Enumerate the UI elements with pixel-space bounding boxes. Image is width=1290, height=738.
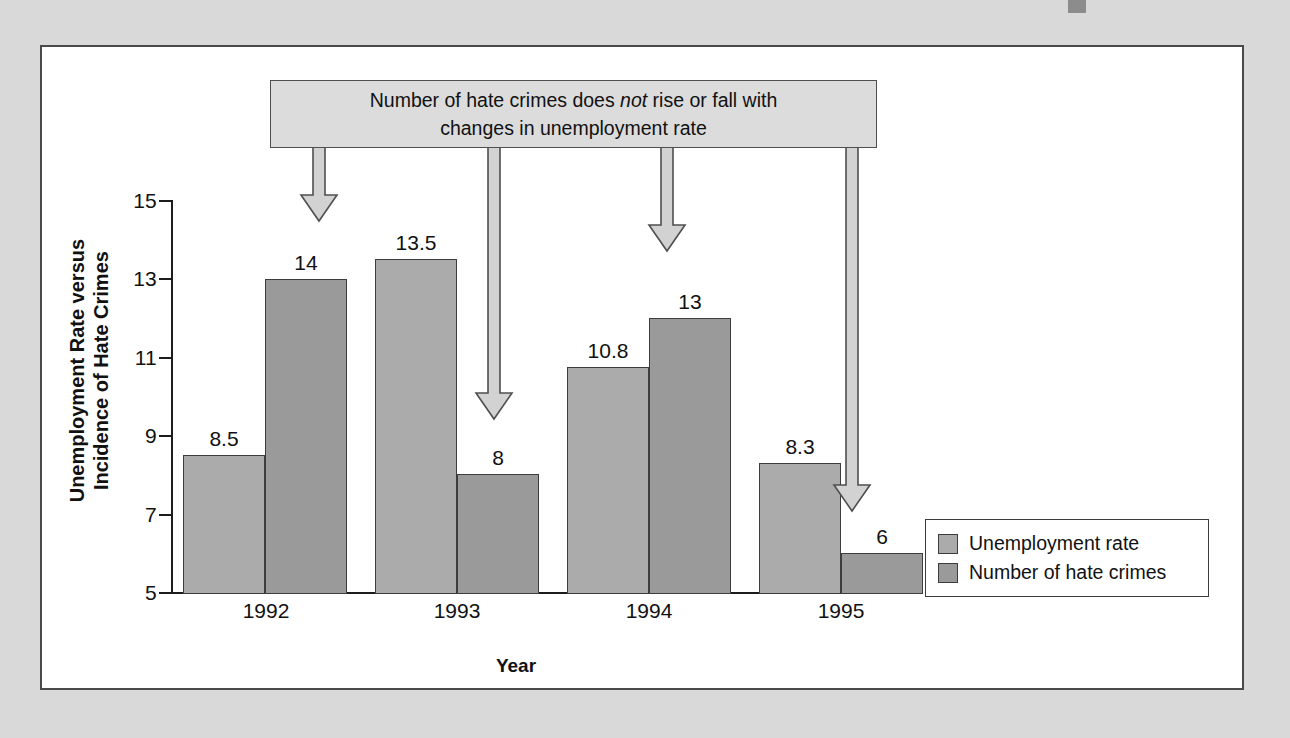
chart-plot-area: 15 13 11 9 7 5 Unemployment Rate versus … <box>42 47 1246 692</box>
legend-swatch-hate-crimes <box>938 563 958 583</box>
annotation-arrow-1993 <box>469 147 519 425</box>
bar-value-1993-unemployment-rate: 13.5 <box>375 231 457 255</box>
bar-value-1994-unemployment-rate: 10.8 <box>567 339 649 363</box>
bar-1995-hate-crimes <box>841 553 923 594</box>
bar-1993-unemployment-rate <box>375 259 457 594</box>
x-tick-label-1993: 1993 <box>416 599 498 623</box>
annotation-line1-post: rise or fall with <box>647 89 777 111</box>
annotation-arrow-1995 <box>827 147 877 517</box>
annotation-line2: changes in unemployment rate <box>440 117 707 139</box>
bar-1992-hate-crimes <box>265 279 347 594</box>
annotation-callout-box: Number of hate crimes does not rise or f… <box>270 80 877 148</box>
bar-1993-hate-crimes <box>457 474 539 594</box>
annotation-line1-pre: Number of hate crimes does <box>370 89 620 111</box>
bar-value-1992-hate-crimes: 14 <box>265 251 347 275</box>
legend-swatch-unemployment-rate <box>938 534 958 554</box>
annotation-callout-text: Number of hate crimes does not rise or f… <box>356 86 792 143</box>
annotation-arrow-1994 <box>642 147 692 257</box>
y-tick-15 <box>159 200 172 202</box>
y-tick-5 <box>159 592 172 594</box>
figure-panel: 15 13 11 9 7 5 Unemployment Rate versus … <box>40 45 1244 690</box>
y-axis-title-line1: Unemployment Rate versus <box>66 201 90 541</box>
x-tick-label-1995: 1995 <box>800 599 882 623</box>
y-axis-line <box>171 200 173 594</box>
x-tick-label-1992: 1992 <box>225 599 307 623</box>
legend-label-unemployment-rate: Unemployment rate <box>969 532 1139 555</box>
bar-value-1994-hate-crimes: 13 <box>649 290 731 314</box>
bar-1994-unemployment-rate <box>567 367 649 594</box>
y-tick-label-5: 5 <box>97 581 157 605</box>
legend-label-hate-crimes: Number of hate crimes <box>969 561 1166 584</box>
annotation-line1-emphasis: not <box>620 89 647 111</box>
y-axis-title: Unemployment Rate versus Incidence of Ha… <box>66 201 113 541</box>
bar-1992-unemployment-rate <box>183 455 265 594</box>
page-corner-mark <box>1068 0 1086 13</box>
bar-value-1992-unemployment-rate: 8.5 <box>183 427 265 451</box>
bar-value-1993-hate-crimes: 8 <box>457 446 539 470</box>
x-tick-label-1994: 1994 <box>608 599 690 623</box>
y-tick-7 <box>159 514 172 516</box>
x-axis-title: Year <box>171 655 861 677</box>
y-axis-title-line2: Incidence of Hate Crimes <box>90 201 114 541</box>
legend-item-hate-crimes: Number of hate crimes <box>938 558 1196 587</box>
chart-legend: Unemployment rate Number of hate crimes <box>925 519 1209 597</box>
legend-item-unemployment-rate: Unemployment rate <box>938 529 1196 558</box>
annotation-arrow-1992 <box>294 147 344 227</box>
bar-value-1995-hate-crimes: 6 <box>841 525 923 549</box>
y-tick-11 <box>159 357 172 359</box>
y-tick-9 <box>159 435 172 437</box>
bar-1994-hate-crimes <box>649 318 731 594</box>
y-tick-13 <box>159 278 172 280</box>
